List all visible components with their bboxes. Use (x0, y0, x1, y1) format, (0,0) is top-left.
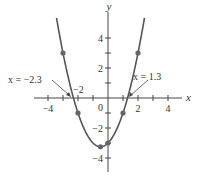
x-axis-label: x (185, 91, 191, 103)
y-axis-label: y (106, 0, 112, 12)
y-tick-label: 4 (98, 33, 103, 44)
minus-two-label: −2 (73, 84, 84, 95)
origin-label: 0 (98, 102, 103, 113)
parabola-graph: −42442−2−40xy x = −2.3 x = 1.3 −2 (0, 0, 206, 180)
left-root-label: x = −2.3 (8, 74, 42, 85)
data-point (135, 50, 140, 55)
data-point (98, 144, 103, 149)
data-point (75, 110, 80, 115)
data-point (60, 50, 65, 55)
y-tick-label: −4 (92, 153, 103, 164)
axes (34, 12, 182, 172)
data-point (120, 110, 125, 115)
x-tick-label: 4 (166, 103, 171, 114)
plot-area: −42442−2−40xy x = −2.3 x = 1.3 −2 (0, 0, 206, 180)
y-tick-label: 2 (98, 63, 103, 74)
tick-labels: −42442−2−40xy (43, 0, 191, 164)
annotations: x = −2.3 x = 1.3 −2 (8, 71, 161, 97)
right-root-arrow (131, 80, 148, 95)
left-root-arrow (52, 80, 69, 95)
y-tick-label: −2 (92, 123, 103, 134)
x-tick-label: 2 (136, 103, 141, 114)
data-point (105, 140, 110, 145)
x-tick-label: −4 (43, 103, 54, 114)
